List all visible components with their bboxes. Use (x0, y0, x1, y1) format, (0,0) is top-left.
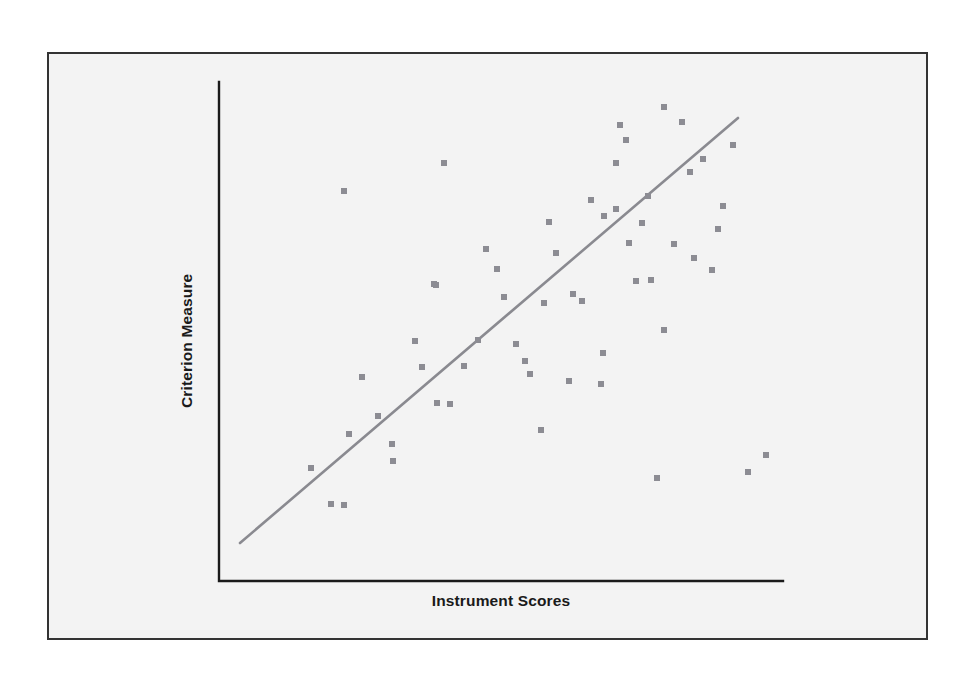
y-axis-label: Criterion Measure (178, 208, 196, 408)
x-axis-label: Instrument Scores (219, 592, 783, 610)
scatter-plot-figure: Criterion Measure Instrument Scores (0, 0, 977, 674)
